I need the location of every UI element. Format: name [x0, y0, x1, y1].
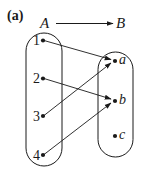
- domain-point: [41, 153, 45, 157]
- domain-element-label: 4: [33, 148, 40, 163]
- domain-point: [41, 38, 45, 42]
- arrow-3-to-a: [44, 63, 111, 116]
- codomain-set-outline: [98, 52, 133, 157]
- panel-label: (a): [7, 8, 24, 24]
- mapping-arrows: [44, 41, 111, 155]
- codomain-elements: a b c: [113, 52, 126, 142]
- domain-elements: 1 2 3 4: [33, 33, 45, 163]
- codomain-point: [113, 134, 117, 138]
- function-mapping-diagram: (a) A B 1 2 3 4 a b c: [0, 0, 142, 172]
- codomain-element-label: a: [119, 52, 126, 67]
- domain-element-label: 2: [33, 71, 40, 86]
- codomain-point: [113, 59, 117, 63]
- domain-element-label: 3: [33, 109, 40, 124]
- domain-set-name: A: [39, 15, 50, 31]
- arrow-1-to-a: [44, 41, 111, 60]
- codomain-set-name: B: [116, 15, 125, 31]
- codomain-element-label: b: [119, 92, 126, 107]
- domain-point: [41, 76, 45, 80]
- domain-point: [41, 114, 45, 118]
- codomain-element-label: c: [119, 127, 126, 142]
- codomain-point: [113, 99, 117, 103]
- domain-element-label: 1: [33, 33, 40, 48]
- arrow-4-to-b: [44, 103, 111, 155]
- domain-set-outline: [26, 33, 62, 166]
